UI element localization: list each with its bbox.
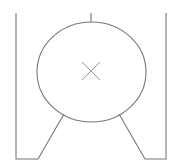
center-cross-icon: [82, 62, 100, 80]
left-bracket-frame: [16, 13, 64, 159]
right-bracket-frame: [119, 13, 166, 159]
diagram-canvas: [0, 0, 180, 167]
